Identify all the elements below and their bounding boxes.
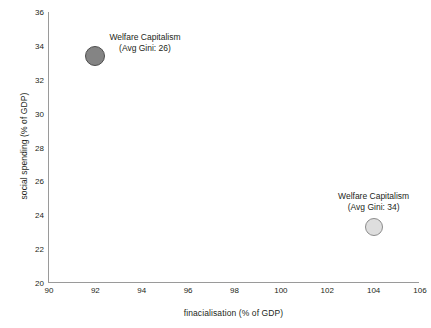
y-tick-label-30: 30 [35, 109, 44, 118]
data-point-annotation-1: Welfare Capitalism(Avg Gini: 34) [318, 191, 430, 213]
x-tick-label-92: 92 [91, 286, 100, 295]
y-tick-label-34: 34 [35, 41, 44, 50]
annotation-line-1: Welfare Capitalism [109, 32, 180, 43]
y-axis-title: social spending (% of GDP) [19, 46, 29, 246]
plot-area: 202224262830323436 909294969810010210410… [48, 12, 419, 283]
annotation-line-1: Welfare Capitalism [318, 191, 430, 202]
annotation-line-2: (Avg Gini: 34) [318, 202, 430, 213]
scatter-chart: social spending (% of GDP) 2022242628303… [0, 0, 431, 328]
x-tick-label-104: 104 [367, 286, 380, 295]
y-tick-label-36: 36 [35, 8, 44, 17]
x-axis-title: finacialisation (% of GDP) [48, 308, 419, 318]
x-tick-label-94: 94 [137, 286, 146, 295]
data-point-marker-1[interactable] [365, 218, 383, 236]
y-tick-label-26: 26 [35, 177, 44, 186]
y-tick-label-32: 32 [35, 75, 44, 84]
y-tick-label-20: 20 [35, 279, 44, 288]
y-tick-label-28: 28 [35, 143, 44, 152]
data-point-annotation-0: Welfare Capitalism(Avg Gini: 26) [109, 32, 180, 54]
data-point-marker-0[interactable] [85, 46, 105, 66]
x-tick-label-102: 102 [321, 286, 334, 295]
x-tick-label-106: 106 [413, 286, 426, 295]
x-tick-label-100: 100 [274, 286, 287, 295]
y-tick-label-22: 22 [35, 245, 44, 254]
x-tick-label-98: 98 [230, 286, 239, 295]
annotation-line-2: (Avg Gini: 26) [109, 43, 180, 54]
x-tick-label-96: 96 [184, 286, 193, 295]
y-tick-label-24: 24 [35, 211, 44, 220]
x-tick-label-90: 90 [45, 286, 54, 295]
